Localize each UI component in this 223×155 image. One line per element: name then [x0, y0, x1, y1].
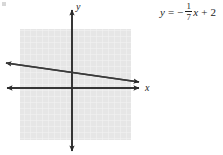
equation-negative-sign: −	[177, 7, 183, 18]
coordinate-plane-svg	[0, 0, 223, 155]
x-axis-label: x	[145, 82, 149, 93]
grid-area	[20, 29, 131, 140]
graph-figure: y x y = − 1 7 x + 2	[0, 0, 223, 155]
equation-equals: =	[168, 7, 174, 18]
equation-lhs: y	[160, 7, 165, 18]
y-axis-label: y	[76, 1, 80, 12]
equation-label: y = − 1 7 x + 2	[160, 2, 216, 22]
fraction-denominator: 7	[186, 12, 193, 22]
equation-plus: +	[201, 7, 207, 18]
equation-fraction: 1 7	[185, 2, 192, 22]
equation-variable: x	[193, 7, 198, 18]
equation-constant: 2	[210, 7, 216, 18]
fraction-numerator: 1	[186, 2, 193, 12]
